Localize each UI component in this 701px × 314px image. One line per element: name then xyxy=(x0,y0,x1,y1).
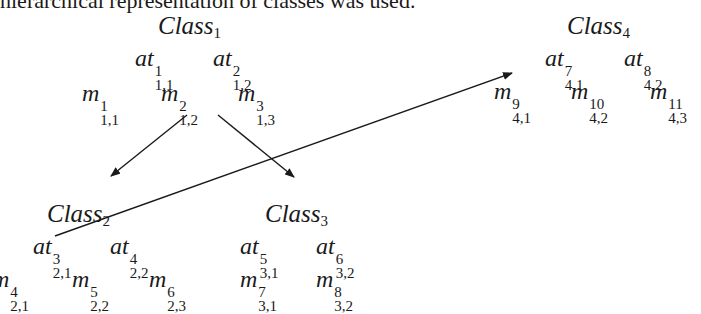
class4-method-3: m114,3 xyxy=(650,78,687,125)
class4-title: Class4 xyxy=(567,12,630,42)
class3-method-2: m83,2 xyxy=(316,266,353,313)
class2-method-2: m52,2 xyxy=(72,266,109,313)
class2-attr-1: at32,1 xyxy=(33,233,71,280)
class1-title: Class1 xyxy=(158,12,221,42)
class1-method-2: m21,2 xyxy=(161,80,198,127)
class4-method-1: m94,1 xyxy=(494,78,531,125)
class1-method-1: m11,1 xyxy=(82,80,119,127)
class3-method-1: m73,1 xyxy=(240,266,277,313)
class1-method-3: m31,3 xyxy=(238,80,275,127)
class4-method-2: m104,2 xyxy=(571,78,608,125)
class3-title: Class3 xyxy=(265,200,328,230)
class2-title: Class2 xyxy=(47,200,110,230)
class2-method-3: m62,3 xyxy=(149,266,186,313)
class2-method-1: m42,1 xyxy=(0,266,29,313)
class2-attr-2: at42,2 xyxy=(110,233,148,280)
